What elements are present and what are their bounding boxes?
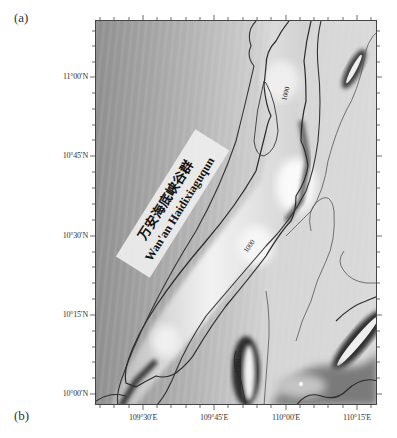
lat-label-11-00: 11°00′N (28, 72, 88, 81)
panel-label-a: (a) (14, 10, 28, 26)
lat-label-10-15: 10°15′N (28, 310, 88, 319)
lat-label-10-45: 10°45′N (28, 151, 88, 160)
panel-label-b: (b) (14, 408, 29, 424)
contour-label-1000-lower: 1000 (233, 358, 242, 373)
lon-label-110-00: 110°00′E (256, 413, 316, 422)
lat-label-10-30: 10°30′N (28, 231, 88, 240)
bathymetry-map: 1000 1000 1000 万安海底峡谷群 Wan'an Haidixiagu… (95, 20, 377, 405)
bathymetry-relief: 1000 1000 1000 万安海底峡谷群 Wan'an Haidixiagu… (96, 21, 377, 405)
lon-label-109-30: 109°30′E (113, 413, 173, 422)
lat-label-10-00: 10°00′N (28, 389, 88, 398)
lon-label-110-15: 110°15′E (327, 413, 387, 422)
lon-label-109-45: 109°45′E (184, 413, 244, 422)
